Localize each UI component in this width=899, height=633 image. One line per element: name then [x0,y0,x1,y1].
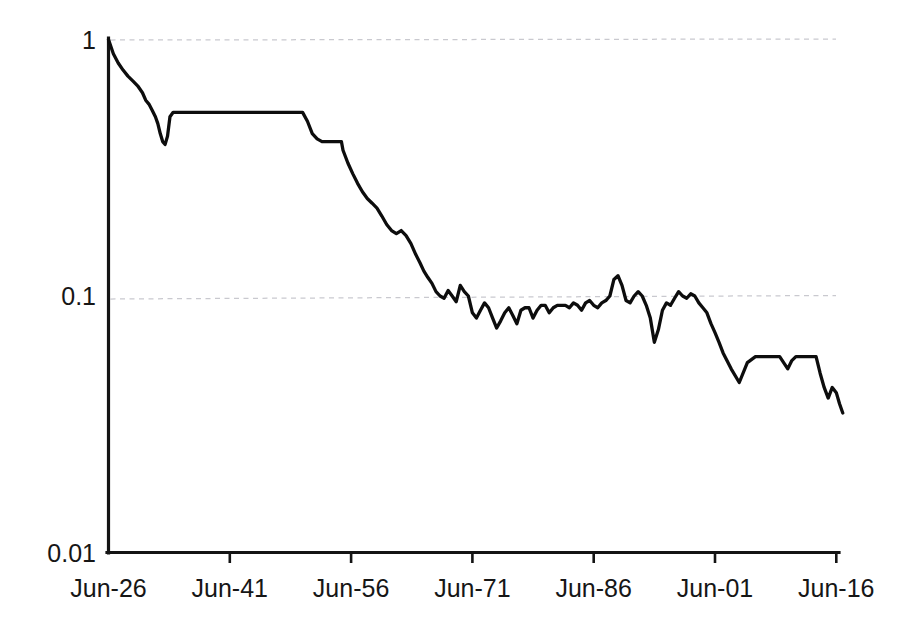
chart-canvas: 10.10.01 Jun-26Jun-41Jun-56Jun-71Jun-86J… [0,0,899,633]
x-tick-label-Jun-71: Jun-71 [434,574,510,602]
chart-background [0,0,899,633]
x-tick-label-Jun-41: Jun-41 [192,574,268,602]
y-tick-label-0.01: 0.01 [47,539,96,567]
y-tick-label-0.1: 0.1 [61,282,96,310]
x-tick-label-Jun-26: Jun-26 [70,574,146,602]
x-tick-label-Jun-56: Jun-56 [313,574,389,602]
log-decay-chart: 10.10.01 Jun-26Jun-41Jun-56Jun-71Jun-86J… [0,0,899,633]
x-tick-label-Jun-01: Jun-01 [677,574,753,602]
x-tick-label-Jun-86: Jun-86 [555,574,631,602]
x-tick-label-Jun-16: Jun-16 [798,574,874,602]
y-tick-label-1: 1 [82,26,96,54]
